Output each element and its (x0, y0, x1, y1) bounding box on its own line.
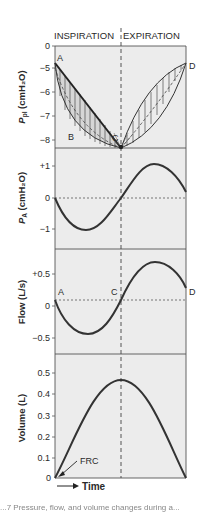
pa-tick-plus1: +1 (40, 161, 50, 171)
respiratory-cycle-figure: text { font-family: "Liberation Sans", s… (0, 0, 207, 513)
point-c-marker (119, 145, 123, 149)
pa-axis-label: PA (cmH₂O) (16, 172, 28, 224)
volume-tick-04: 0.4 (37, 389, 50, 399)
expiration-label: EXPIRATION (123, 30, 180, 41)
inspiration-label: INSPIRATION (54, 30, 114, 41)
volume-tick-05: 0.5 (37, 368, 50, 378)
flow-tick-0: 0 (45, 301, 50, 311)
volume-tick-01: 0.1 (37, 453, 50, 463)
volume-tick-02: 0.2 (37, 432, 50, 442)
ppl-tick-minus8: −8 (40, 135, 50, 145)
flow-point-d-label: D (189, 287, 196, 297)
volume-tick-03: 0.3 (37, 411, 50, 421)
ppl-tick-minus7: −7 (40, 111, 50, 121)
point-d-label: D (189, 61, 196, 71)
ppl-tick-0: 0 (45, 41, 50, 51)
frc-label: FRC (80, 456, 99, 466)
ppl-axis-label: Ppl (cmH₂O) (16, 70, 29, 123)
flow-axis-label: Flow (L/s) (16, 280, 27, 324)
figure-caption: ...7 Pressure, flow, and volume changes … (0, 503, 207, 513)
volume-tick-0: 0 (46, 473, 51, 483)
flow-point-c-label: C (111, 287, 118, 297)
point-a-label: A (57, 53, 63, 63)
flow-point-a-label: A (58, 287, 64, 297)
time-axis: Time (57, 481, 106, 492)
point-c-label: C (112, 133, 119, 143)
time-label: Time (82, 481, 106, 492)
pa-tick-minus1: −1 (40, 224, 50, 234)
ppl-tick-minus6: −6 (40, 87, 50, 97)
flow-tick-plus05: +0.5 (32, 269, 50, 279)
volume-axis-label: Volume (L) (16, 394, 27, 442)
ppl-tick-minus5: −5 (40, 63, 50, 73)
point-b-label: B (68, 132, 74, 142)
pa-tick-0: 0 (45, 193, 50, 203)
flow-tick-minus05: −0.5 (32, 333, 50, 343)
time-arrow-icon (73, 483, 79, 489)
